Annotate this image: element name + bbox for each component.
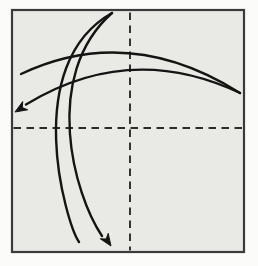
paper-square xyxy=(12,10,244,252)
diagram-svg xyxy=(0,0,258,266)
origami-diagram xyxy=(0,0,258,266)
